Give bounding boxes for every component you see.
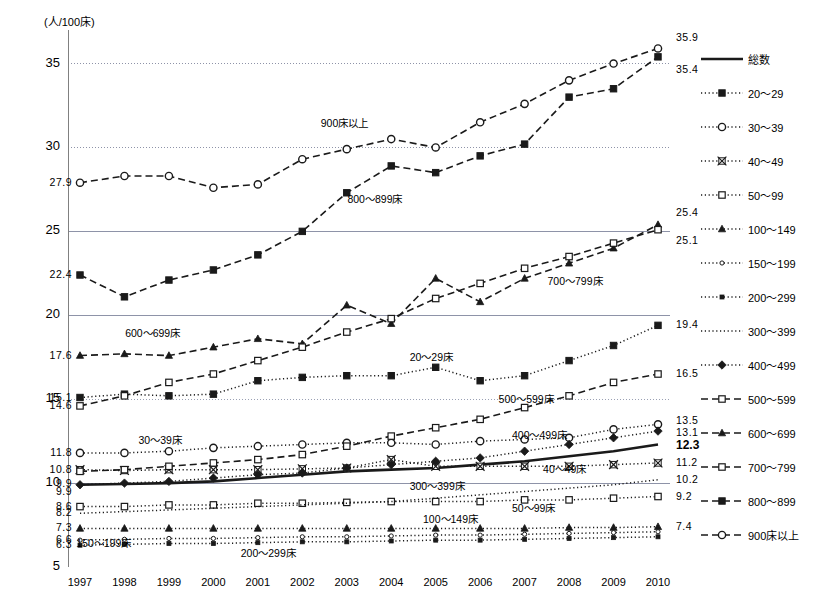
legend-item-9[interactable]: 400〜499 bbox=[700, 348, 824, 382]
legend-swatch-cross-box-icon bbox=[700, 155, 744, 167]
series-callout: 20〜29床 bbox=[410, 349, 453, 364]
legend-item-7[interactable]: 200〜299 bbox=[700, 280, 824, 314]
x-tick-label: 2010 bbox=[636, 576, 680, 588]
right-value-label: 13.1 bbox=[676, 426, 698, 438]
series-14 bbox=[76, 45, 661, 191]
series-4 bbox=[77, 493, 661, 509]
legend-item-5[interactable]: 100〜149 bbox=[700, 212, 824, 246]
legend-swatch-none-icon bbox=[700, 53, 744, 65]
series-callout: 40〜49床 bbox=[543, 461, 586, 476]
x-tick-label: 2006 bbox=[458, 576, 502, 588]
legend-item-10[interactable]: 500〜599 bbox=[700, 382, 824, 416]
x-tick-label: 1997 bbox=[58, 576, 102, 588]
chart-canvas bbox=[68, 30, 670, 567]
legend-label: 900床以上 bbox=[748, 527, 799, 543]
legend-label: 400〜499 bbox=[748, 357, 796, 373]
left-value-label: 27.9 bbox=[50, 176, 72, 188]
left-value-label: 7.3 bbox=[56, 521, 72, 533]
legend-item-14[interactable]: 900床以上 bbox=[700, 518, 824, 552]
left-value-label: 10.8 bbox=[50, 463, 72, 475]
legend-label: 50〜99 bbox=[748, 187, 783, 203]
series-10 bbox=[77, 371, 661, 475]
left-value-label: 11.8 bbox=[50, 446, 72, 458]
x-tick-label: 2008 bbox=[547, 576, 591, 588]
y-axis-title: (人/100床) bbox=[44, 13, 95, 29]
y-tick-label: 25 bbox=[28, 222, 60, 237]
y-tick-label: 20 bbox=[28, 306, 60, 321]
legend-swatch-square-open-icon bbox=[700, 461, 744, 473]
legend-label: 100〜149 bbox=[748, 221, 796, 237]
right-value-label: 7.4 bbox=[676, 520, 692, 532]
x-tick-label: 1998 bbox=[102, 576, 146, 588]
x-tick-label: 2003 bbox=[325, 576, 369, 588]
left-value-label: 17.6 bbox=[50, 349, 72, 361]
series-12 bbox=[77, 226, 661, 409]
right-value-label: 16.5 bbox=[676, 367, 698, 379]
x-tick-label: 2007 bbox=[503, 576, 547, 588]
legend-label: 30〜39 bbox=[748, 119, 783, 135]
series-callout: 900床以上 bbox=[321, 115, 369, 130]
legend-swatch-square-open-icon bbox=[700, 189, 744, 201]
legend-label: 200〜299 bbox=[748, 289, 796, 305]
legend-item-1[interactable]: 20〜29 bbox=[700, 76, 824, 110]
left-value-label: 14.6 bbox=[50, 399, 72, 411]
series-13 bbox=[77, 54, 661, 300]
legend-swatch-none-icon bbox=[700, 325, 744, 337]
series-callout: 50〜99床 bbox=[512, 500, 555, 515]
legend-swatch-circle-small-icon bbox=[700, 257, 744, 269]
right-value-label: 25.1 bbox=[676, 234, 698, 246]
legend-label: 総数 bbox=[748, 51, 770, 67]
series-callout: 700〜799床 bbox=[548, 273, 603, 288]
legend-label: 300〜399 bbox=[748, 323, 796, 339]
right-value-label: 13.5 bbox=[676, 414, 698, 426]
legend-label: 800〜899 bbox=[748, 493, 796, 509]
x-tick-label: 2002 bbox=[280, 576, 324, 588]
series-callout: 800〜899床 bbox=[347, 191, 402, 206]
legend-swatch-diamond-icon bbox=[700, 359, 744, 371]
series-5 bbox=[76, 523, 661, 531]
right-value-label: 35.9 bbox=[676, 31, 698, 43]
series-callout: 300〜399床 bbox=[410, 478, 465, 493]
right-value-label: 19.4 bbox=[676, 318, 698, 330]
legend-item-4[interactable]: 50〜99 bbox=[700, 178, 824, 212]
x-tick-label: 1999 bbox=[147, 576, 191, 588]
plot-area bbox=[68, 30, 670, 567]
left-value-label: 9.9 bbox=[56, 485, 72, 497]
legend-label: 20〜29 bbox=[748, 85, 783, 101]
right-value-label: 35.4 bbox=[676, 63, 698, 75]
legend-item-6[interactable]: 150〜199 bbox=[700, 246, 824, 280]
series-callout: 600〜699床 bbox=[125, 325, 180, 340]
legend-item-13[interactable]: 800〜899 bbox=[700, 484, 824, 518]
legend-swatch-circle-open-icon bbox=[700, 121, 744, 133]
legend-item-3[interactable]: 40〜49 bbox=[700, 144, 824, 178]
y-tick-label: 5 bbox=[28, 558, 60, 573]
x-tick-label: 2005 bbox=[414, 576, 458, 588]
y-tick-label: 35 bbox=[28, 55, 60, 70]
x-tick-label: 2000 bbox=[191, 576, 235, 588]
legend-swatch-square-icon bbox=[700, 495, 744, 507]
legend-item-12[interactable]: 700〜799 bbox=[700, 450, 824, 484]
series-callout: 100〜149床 bbox=[423, 511, 478, 526]
legend-label: 500〜599 bbox=[748, 391, 796, 407]
series-callout: 400〜499床 bbox=[512, 427, 567, 442]
legend-item-8[interactable]: 300〜399 bbox=[700, 314, 824, 348]
left-value-label: 22.4 bbox=[50, 268, 72, 280]
right-value-label: 25.4 bbox=[676, 206, 698, 218]
right-value-label: 12.3 bbox=[676, 438, 699, 452]
legend-swatch-circle-open-icon bbox=[700, 529, 744, 541]
chart-legend: 総数20〜2930〜3940〜4950〜99100〜149150〜199200〜… bbox=[700, 42, 824, 552]
series-callout: 150〜199床 bbox=[76, 535, 131, 550]
legend-label: 600〜699 bbox=[748, 425, 796, 441]
y-tick-label: 30 bbox=[28, 138, 60, 153]
series-callout: 30〜39床 bbox=[138, 432, 181, 447]
x-tick-label: 2001 bbox=[236, 576, 280, 588]
legend-item-11[interactable]: 600〜699 bbox=[700, 416, 824, 450]
x-tick-label: 2004 bbox=[369, 576, 413, 588]
right-value-label: 9.2 bbox=[676, 490, 692, 502]
legend-label: 150〜199 bbox=[748, 255, 796, 271]
legend-swatch-triangle-icon bbox=[700, 427, 744, 439]
legend-swatch-triangle-icon bbox=[700, 223, 744, 235]
legend-label: 700〜799 bbox=[748, 459, 796, 475]
legend-item-0[interactable]: 総数 bbox=[700, 42, 824, 76]
legend-item-2[interactable]: 30〜39 bbox=[700, 110, 824, 144]
